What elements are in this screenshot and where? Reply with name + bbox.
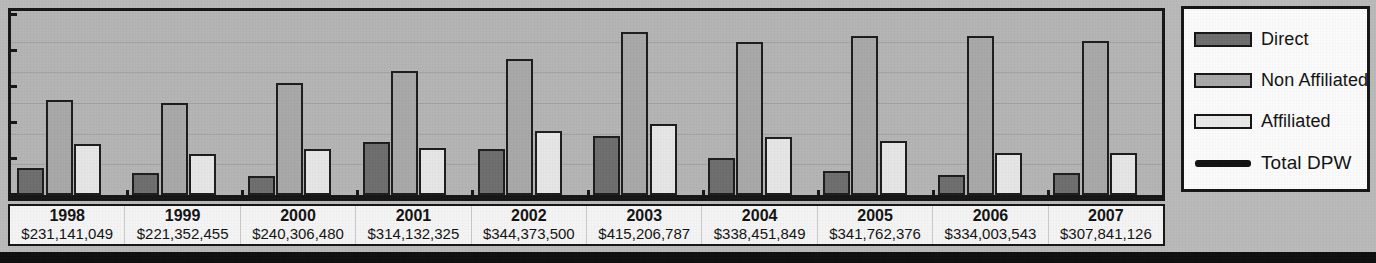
x-axis-tick	[471, 190, 474, 199]
x-axis-label-cell-2005: 2005$341,762,376	[818, 206, 933, 244]
x-axis-total-value: $338,451,849	[714, 225, 806, 243]
legend-label-non-affiliated: Non Affiliated	[1261, 70, 1368, 91]
x-axis-year-label: 2003	[626, 207, 662, 225]
line-swatch-total-dpw-icon	[1194, 155, 1252, 170]
x-axis-tick	[1047, 190, 1050, 199]
bar-swatch-affiliated-icon	[1194, 114, 1252, 129]
x-axis-label-cell-2007: 2007$307,841,126	[1049, 206, 1163, 244]
bar-swatch-nonaffiliated-icon	[1194, 73, 1252, 88]
bar-swatch-direct-icon	[1194, 32, 1252, 47]
scan-bottom-edge	[0, 252, 1376, 263]
x-axis-label-cell-2000: 2000$240,306,480	[241, 206, 356, 244]
x-axis-label-cell-1998: 1998$231,141,049	[10, 206, 125, 244]
x-axis-year-label: 2002	[511, 207, 547, 225]
x-axis-total-value: $307,841,126	[1060, 225, 1152, 243]
x-axis-label-cell-2004: 2004$338,451,849	[702, 206, 817, 244]
x-axis-tick	[932, 190, 935, 199]
x-axis-year-label: 2001	[396, 207, 432, 225]
x-axis-year-label: 2005	[857, 207, 893, 225]
x-axis-total-value: $341,762,376	[829, 225, 921, 243]
x-axis-total-value: $240,306,480	[252, 225, 344, 243]
x-axis-label-cell-1999: 1999$221,352,455	[125, 206, 240, 244]
legend-item-non-affiliated[interactable]: Non Affiliated	[1194, 60, 1367, 101]
x-axis-year-label: 2004	[742, 207, 778, 225]
legend-label-direct: Direct	[1261, 29, 1309, 50]
x-axis-tick	[702, 190, 705, 199]
x-axis-total-value: $344,373,500	[483, 225, 575, 243]
plot-inner	[11, 11, 1162, 198]
x-axis-label-cell-2003: 2003$415,206,787	[587, 206, 702, 244]
x-axis-total-value: $415,206,787	[598, 225, 690, 243]
legend-item-total-dpw[interactable]: Total DPW	[1194, 142, 1367, 183]
x-axis-year-label: 2000	[280, 207, 316, 225]
x-axis-label-cell-2002: 2002$344,373,500	[472, 206, 587, 244]
x-axis-tick	[126, 190, 129, 199]
x-axis-tick	[817, 190, 820, 199]
x-axis-tick	[356, 190, 359, 199]
x-axis-total-value: $231,141,049	[21, 225, 113, 243]
x-axis-total-value: $221,352,455	[137, 225, 229, 243]
x-axis-year-label: 1999	[165, 207, 201, 225]
legend-label-affiliated: Affiliated	[1261, 111, 1331, 132]
legend-label-total-dpw: Total DPW	[1261, 152, 1352, 174]
chart-legend: Direct Non Affiliated Affiliated Total D…	[1181, 6, 1370, 192]
x-axis-label-cell-2001: 2001$314,132,325	[356, 206, 471, 244]
x-axis-year-label: 2006	[973, 207, 1009, 225]
x-axis-label-table: 1998$231,141,0491999$221,352,4552000$240…	[8, 204, 1165, 246]
total-dpw-line-series	[11, 11, 1162, 198]
x-axis-tick	[587, 190, 590, 199]
x-axis-label-cell-2006: 2006$334,003,543	[933, 206, 1048, 244]
x-axis-total-value: $314,132,325	[368, 225, 460, 243]
x-axis-total-value: $334,003,543	[945, 225, 1037, 243]
x-axis-year-label: 1998	[49, 207, 85, 225]
x-axis-tick	[241, 190, 244, 199]
legend-item-affiliated[interactable]: Affiliated	[1194, 101, 1367, 142]
x-axis-year-label: 2007	[1088, 207, 1124, 225]
chart-plot-area	[8, 8, 1165, 201]
legend-item-direct[interactable]: Direct	[1194, 19, 1367, 60]
